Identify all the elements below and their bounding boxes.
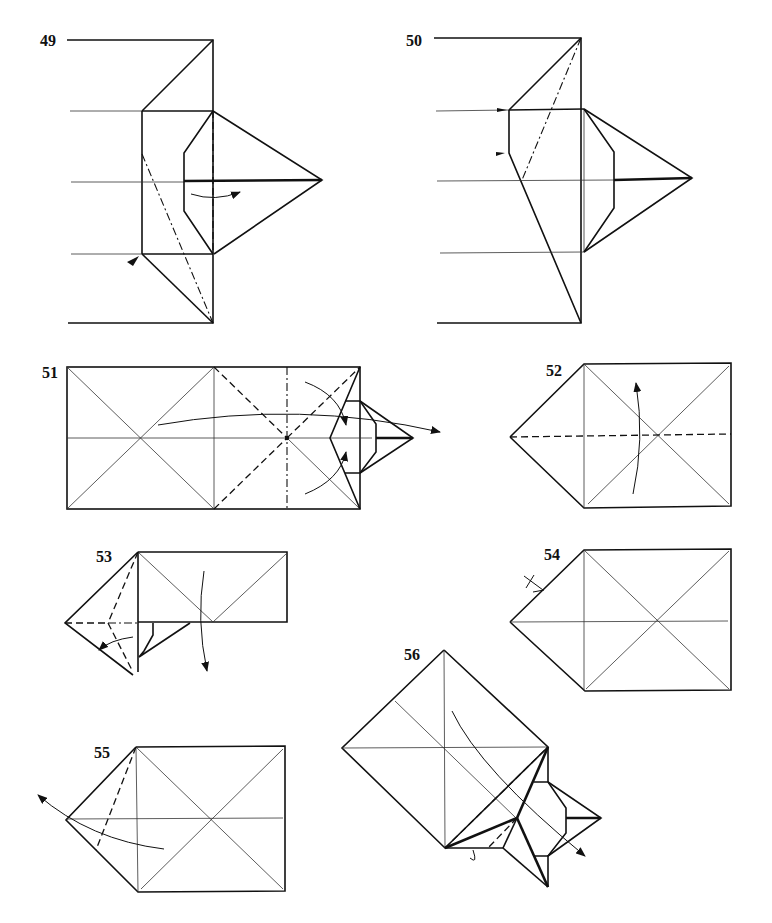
step-54-diagram	[510, 549, 731, 691]
step-56-diagram	[342, 650, 601, 887]
step-53-diagram	[65, 552, 287, 675]
step-51-diagram	[67, 367, 440, 509]
tick-mark-icon	[524, 575, 544, 592]
step-50-diagram	[434, 38, 692, 323]
step-55-diagram	[38, 746, 285, 892]
step-49-diagram	[67, 40, 322, 323]
push-arrowhead-icon	[127, 256, 139, 266]
diagram-canvas	[0, 0, 772, 923]
step-52-diagram	[510, 363, 731, 508]
push-arrowhead-icon	[497, 108, 507, 112]
push-arrowhead-icon	[496, 152, 505, 156]
